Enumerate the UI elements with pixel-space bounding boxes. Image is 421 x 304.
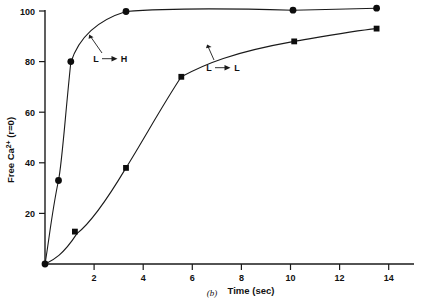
x-axis-ticks bbox=[94, 264, 389, 270]
data-point bbox=[290, 7, 297, 14]
y-axis-title-tail: (r=0) bbox=[5, 117, 16, 141]
y-axis-ticks bbox=[39, 11, 45, 213]
figure-caption: (b) bbox=[207, 288, 218, 298]
data-point bbox=[55, 177, 62, 184]
data-point bbox=[72, 229, 78, 235]
figure-panel: 100 80 60 40 20 2 4 6 8 10 12 14 Time (s… bbox=[0, 0, 421, 304]
data-point bbox=[42, 261, 49, 268]
y-axis-title-main: Free Ca bbox=[5, 147, 16, 183]
annotation-ll-right: L bbox=[234, 63, 240, 73]
data-point bbox=[123, 165, 129, 171]
annotation-lh: L H bbox=[89, 35, 128, 65]
data-point bbox=[373, 5, 380, 12]
y-tick-label-60: 60 bbox=[25, 108, 35, 118]
data-point bbox=[123, 8, 130, 15]
series-markers-ll bbox=[72, 26, 380, 235]
svg-text:Free Ca2+ (r=0): Free Ca2+ (r=0) bbox=[5, 117, 17, 183]
y-tick-label-40: 40 bbox=[25, 158, 35, 168]
y-axis-title: Free Ca2+ (r=0) bbox=[5, 117, 17, 183]
x-tick-label-10: 10 bbox=[285, 273, 295, 283]
x-axis-title: Time (sec) bbox=[228, 285, 275, 296]
data-point bbox=[291, 39, 297, 45]
y-axis-tick-labels: 100 80 60 40 20 bbox=[20, 7, 35, 219]
x-tick-label-2: 2 bbox=[92, 273, 97, 283]
data-point bbox=[67, 58, 74, 65]
x-tick-label-12: 12 bbox=[335, 273, 345, 283]
x-tick-label-8: 8 bbox=[239, 273, 244, 283]
y-tick-label-20: 20 bbox=[25, 209, 35, 219]
data-point bbox=[178, 74, 184, 80]
y-tick-label-80: 80 bbox=[25, 57, 35, 67]
chart-svg: 100 80 60 40 20 2 4 6 8 10 12 14 Time (s… bbox=[0, 0, 421, 304]
x-tick-label-4: 4 bbox=[141, 273, 146, 283]
x-tick-label-14: 14 bbox=[384, 273, 394, 283]
data-point bbox=[374, 26, 380, 32]
annotation-ll-left: L bbox=[206, 63, 212, 73]
series-markers-lh bbox=[42, 5, 380, 268]
x-axis-tick-labels: 2 4 6 8 10 12 14 bbox=[92, 273, 394, 283]
y-axis-title-superscript: 2+ bbox=[5, 140, 12, 148]
y-tick-label-100: 100 bbox=[20, 7, 35, 17]
annotation-lh-right: H bbox=[121, 54, 128, 64]
annotation-lh-left: L bbox=[93, 54, 99, 64]
x-tick-label-6: 6 bbox=[190, 273, 195, 283]
